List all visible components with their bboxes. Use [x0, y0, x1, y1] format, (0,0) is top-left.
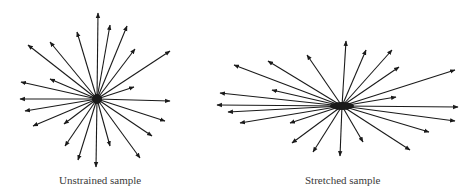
vector-arrow: [292, 106, 342, 143]
vector-arrow: [342, 70, 455, 106]
stretched-arrow-diagram: [217, 41, 458, 156]
vector-arrow: [97, 49, 135, 99]
unstrained-sample-caption: Unstrained sample: [59, 174, 141, 186]
vector-arrow: [342, 106, 458, 107]
vector-arrow: [96, 99, 97, 167]
vector-arrow: [97, 51, 170, 99]
vector-arrow: [97, 26, 127, 99]
unstrained-arrow-diagram: [20, 13, 170, 167]
vector-arrow: [97, 13, 98, 99]
vector-arrow: [97, 25, 110, 99]
vector-arrow: [78, 99, 97, 160]
vector-arrow: [217, 105, 342, 106]
vector-arrow: [50, 79, 97, 99]
vector-arrow: [77, 32, 97, 99]
diagram-canvas: [0, 0, 473, 193]
vector-arrow: [97, 87, 134, 99]
vector-arrow: [25, 99, 97, 111]
vector-arrow: [340, 106, 342, 156]
vector-arrow: [97, 99, 170, 101]
vector-arrow: [342, 106, 410, 150]
vector-arrow: [97, 99, 165, 121]
origin-point: [92, 94, 102, 104]
vector-arrow: [64, 99, 97, 124]
origin-point: [330, 102, 354, 110]
vector-arrow: [342, 41, 346, 106]
vector-arrow: [342, 106, 455, 121]
vector-arrow: [313, 106, 342, 152]
vector-arrow: [307, 55, 342, 106]
stretched-sample-caption: Stretched sample: [305, 174, 380, 186]
vector-arrow: [97, 99, 140, 158]
